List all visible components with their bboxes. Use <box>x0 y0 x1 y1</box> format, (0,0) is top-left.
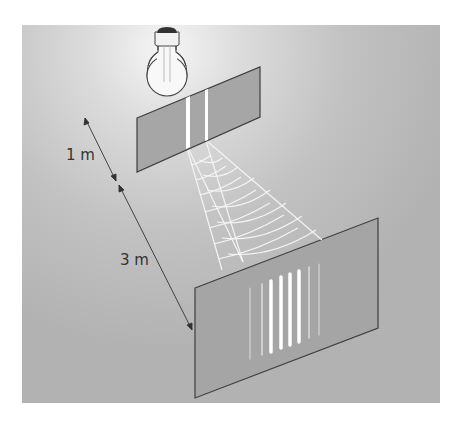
label-1m: 1 m <box>66 146 95 164</box>
label-3m: 3 m <box>120 251 149 269</box>
slit-2 <box>205 89 208 141</box>
double-slit-diagram: 1 m 3 m <box>0 0 458 421</box>
slit-1 <box>186 96 190 149</box>
